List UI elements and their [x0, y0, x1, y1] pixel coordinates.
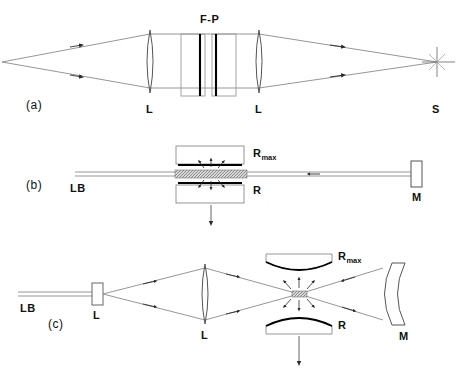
label-lb-b: LB — [70, 183, 86, 194]
end-mirror-b — [411, 161, 422, 187]
label-rmax-b: Rmax — [253, 148, 276, 162]
label-lb-c: LB — [20, 303, 36, 314]
panel-c-input-beam — [18, 292, 92, 296]
panel-label-a: (a) — [26, 99, 42, 111]
label-fabry-perot: F-P — [200, 14, 219, 25]
label-lens-c-input: L — [93, 310, 100, 321]
screen-point-marker-s — [422, 47, 455, 77]
panel-c-rays — [103, 268, 383, 320]
label-rmax-c: Rmax — [338, 251, 361, 265]
label-lens-a-right: L — [255, 104, 262, 115]
label-screen-s: S — [432, 104, 440, 115]
lens-a-right — [256, 30, 262, 93]
panel-label-b: (b) — [26, 179, 42, 191]
lens-c-input — [92, 283, 103, 305]
panel-a-rays — [2, 34, 437, 88]
label-r-b: R — [253, 185, 261, 196]
end-mirror-c — [385, 263, 406, 325]
mirror-b-bottom — [176, 183, 244, 203]
label-rmax-c-sub: max — [346, 256, 361, 265]
lens-a-left — [147, 30, 153, 93]
gain-region-b — [175, 170, 247, 178]
mirror-c-top — [266, 254, 332, 270]
label-r-c: R — [338, 320, 346, 331]
label-lens-a-left: L — [146, 104, 153, 115]
mirror-c-bottom — [266, 318, 332, 334]
label-lens-c-main: L — [201, 330, 208, 341]
focus-spot-c — [292, 291, 307, 297]
lens-c-main — [202, 264, 208, 324]
label-mirror-m-c: M — [399, 331, 409, 342]
label-rmax-b-sub: max — [261, 153, 276, 162]
fabry-perot-etalon — [181, 34, 236, 96]
label-mirror-m-b: M — [412, 192, 422, 203]
mirror-b-top — [176, 146, 244, 165]
panel-label-c: (c) — [48, 318, 64, 330]
optics-figure: F-P L L S (a) Rmax R LB M (b) LB L L Rma… — [0, 0, 461, 383]
